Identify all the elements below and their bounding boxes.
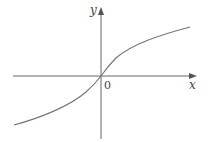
graph-figure: x y 0 <box>0 0 211 142</box>
x-axis-label: x <box>189 78 196 92</box>
y-axis-arrow-icon <box>98 7 104 15</box>
y-axis-label: y <box>89 3 97 17</box>
origin-label: 0 <box>104 79 111 92</box>
